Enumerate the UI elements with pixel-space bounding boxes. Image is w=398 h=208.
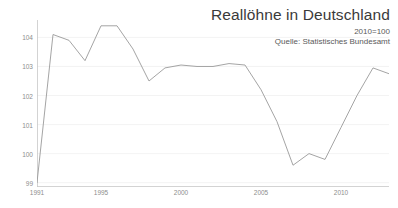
x-tick-label: 2005 xyxy=(254,189,268,196)
x-tick-label: 2010 xyxy=(334,189,348,196)
x-tick-label: 1995 xyxy=(94,189,108,196)
x-tick-label: 1991 xyxy=(30,189,44,196)
x-axis-tick-labels: 19911995200020052010 xyxy=(0,0,398,208)
chart-figure: Reallöhne in Deutschland 2010=100 Quelle… xyxy=(0,0,398,208)
x-tick-label: 2000 xyxy=(174,189,188,196)
